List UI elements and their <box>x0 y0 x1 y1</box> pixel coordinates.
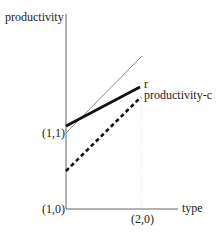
x-axis-label: type <box>182 201 203 215</box>
y-axis-label: productivity <box>5 10 64 24</box>
line-productivity-c <box>66 97 141 171</box>
line-r <box>66 87 140 126</box>
origin-label: (1,0) <box>42 202 65 216</box>
y-tick-label: (1,1) <box>42 126 65 140</box>
line-productivity-c-label: productivity-c <box>144 88 212 102</box>
x-tick-label: (2,0) <box>131 212 154 226</box>
productivity-type-diagram: productivity type (1,1) (1,0) (2,0) r pr… <box>0 0 222 236</box>
